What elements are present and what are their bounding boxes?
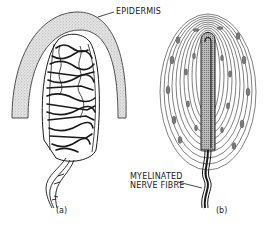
figure-illustration bbox=[0, 0, 266, 227]
nerve-fibre-label: NERVE FIBRE bbox=[130, 182, 185, 190]
myelinated-label: MYELINATED bbox=[130, 173, 183, 181]
epidermis-label: EPIDERMIS bbox=[116, 8, 161, 16]
epidermis-band bbox=[12, 12, 126, 118]
panel-a-drawing bbox=[12, 12, 126, 208]
panel-a-label: (a) bbox=[56, 206, 67, 215]
panel-b-label: (b) bbox=[216, 206, 227, 215]
